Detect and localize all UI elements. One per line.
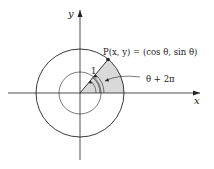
angle-label: θ + 2π: [146, 74, 175, 84]
y-axis-arrow-icon: [78, 10, 83, 17]
point-label: P(x, y) = (cos θ, sin θ): [103, 47, 197, 57]
shaded-sector: [80, 60, 124, 94]
unit-circle-diagram: y x P(x, y) = (cos θ, sin θ) 1 θ + 2π: [0, 0, 214, 169]
x-axis-label: x: [194, 95, 200, 106]
radius-label: 1: [91, 66, 96, 76]
point-p: [106, 58, 110, 62]
y-axis-label: y: [67, 8, 74, 19]
